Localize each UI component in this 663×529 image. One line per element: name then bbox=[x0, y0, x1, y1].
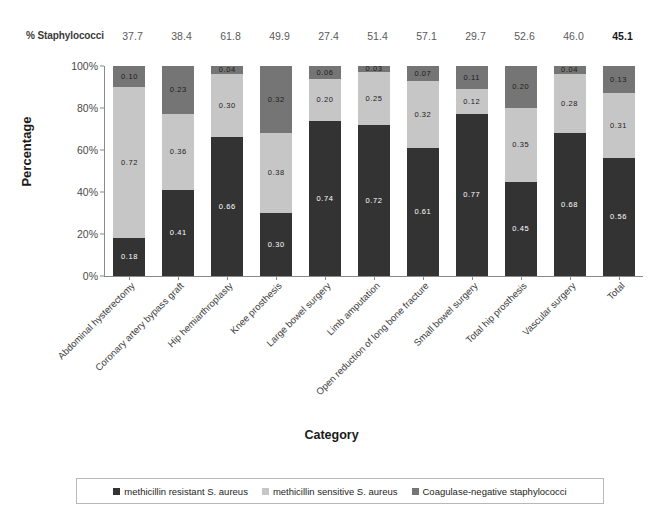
stacked-bar[interactable]: 0.130.310.56 bbox=[603, 66, 635, 276]
bar-slot[interactable]: 0.040.280.68 bbox=[545, 66, 594, 276]
bar-segment[interactable]: 0.20 bbox=[505, 66, 537, 108]
category-label-slot: Hip hemiarthroplasty bbox=[203, 278, 252, 398]
y-axis-tick-label: 0% bbox=[83, 270, 98, 282]
bar-segment[interactable]: 0.61 bbox=[407, 148, 439, 276]
stacked-bar[interactable]: 0.320.380.30 bbox=[260, 66, 292, 276]
staphylococci-value: 45.1 bbox=[598, 30, 647, 42]
legend-label: methicillin sensitive S. aureus bbox=[273, 486, 398, 497]
bar-segment[interactable]: 0.06 bbox=[309, 66, 341, 79]
bar-segment[interactable]: 0.38 bbox=[260, 133, 292, 213]
legend-item[interactable]: methicillin sensitive S. aureus bbox=[262, 486, 398, 497]
bar-segment[interactable]: 0.04 bbox=[554, 66, 586, 74]
category-label-slot: Total hip prosthesis bbox=[496, 278, 545, 398]
y-axis-tick-label: 80% bbox=[77, 102, 98, 114]
staphylococci-value: 29.7 bbox=[451, 30, 500, 42]
bar-segment-value: 0.18 bbox=[121, 253, 138, 261]
stacked-bar[interactable]: 0.040.300.66 bbox=[211, 66, 243, 276]
stacked-bar[interactable]: 0.100.720.18 bbox=[113, 66, 145, 276]
bar-segment-value: 0.07 bbox=[414, 70, 431, 78]
stacked-bar[interactable]: 0.040.280.68 bbox=[554, 66, 586, 276]
bar-segment-value: 0.35 bbox=[512, 141, 529, 149]
bar-segment-value: 0.68 bbox=[561, 201, 578, 209]
bar-segment[interactable]: 0.10 bbox=[113, 66, 145, 87]
bar-segment[interactable]: 0.04 bbox=[211, 66, 243, 74]
stacked-bar[interactable]: 0.030.250.72 bbox=[358, 66, 390, 276]
bar-segment[interactable]: 0.07 bbox=[407, 66, 439, 81]
bar-segment[interactable]: 0.25 bbox=[358, 72, 390, 125]
category-label: Total bbox=[604, 280, 626, 302]
category-label: Abdominal hysterectomy bbox=[56, 280, 137, 361]
bar-segment-value: 0.72 bbox=[365, 197, 382, 205]
bar-segment-value: 0.61 bbox=[414, 208, 431, 216]
stacked-bar[interactable]: 0.200.350.45 bbox=[505, 66, 537, 276]
bar-segment[interactable]: 0.12 bbox=[456, 89, 488, 114]
bar-segment[interactable]: 0.28 bbox=[554, 74, 586, 133]
bar-segment-value: 0.28 bbox=[561, 100, 578, 108]
bar-segment[interactable]: 0.32 bbox=[260, 66, 292, 133]
bar-segment[interactable]: 0.30 bbox=[211, 74, 243, 137]
bar-segment[interactable]: 0.56 bbox=[603, 158, 635, 276]
bar-segment-value: 0.74 bbox=[317, 195, 334, 203]
legend-item[interactable]: Coagulase-negative staphylococci bbox=[412, 486, 567, 497]
bar-segment-value: 0.10 bbox=[121, 73, 138, 81]
bar-slot[interactable]: 0.100.720.18 bbox=[105, 66, 154, 276]
y-axis-tick-label: 20% bbox=[77, 228, 98, 240]
bar-segment[interactable]: 0.77 bbox=[456, 114, 488, 276]
bar-slot[interactable]: 0.040.300.66 bbox=[203, 66, 252, 276]
bar-segment[interactable]: 0.41 bbox=[162, 190, 194, 276]
staphylococci-annotation-row: % Staphylococci 37.738.461.849.927.451.4… bbox=[0, 30, 663, 50]
bar-slot[interactable]: 0.070.320.61 bbox=[398, 66, 447, 276]
legend-item[interactable]: methicillin resistant S. aureus bbox=[113, 486, 248, 497]
bar-segment-value: 0.20 bbox=[317, 96, 334, 104]
stacked-bar[interactable]: 0.110.120.77 bbox=[456, 66, 488, 276]
staphylococci-row-label: % Staphylococci bbox=[26, 30, 114, 41]
bar-segment-value: 0.11 bbox=[464, 74, 480, 82]
bar-segment[interactable]: 0.36 bbox=[162, 114, 194, 190]
bar-segment[interactable]: 0.20 bbox=[309, 79, 341, 121]
bar-segment[interactable]: 0.45 bbox=[505, 182, 537, 277]
legend-label: Coagulase-negative staphylococci bbox=[423, 486, 567, 497]
y-axis-ticks: 0%20%40%60%80%100% bbox=[58, 66, 104, 276]
bar-slot[interactable]: 0.060.200.74 bbox=[301, 66, 350, 276]
y-axis-tick-label: 60% bbox=[77, 144, 98, 156]
bar-segment[interactable]: 0.11 bbox=[456, 66, 488, 89]
bar-segment[interactable]: 0.13 bbox=[603, 66, 635, 93]
bar-segment-value: 0.31 bbox=[610, 122, 627, 130]
bar-segment[interactable]: 0.31 bbox=[603, 93, 635, 158]
bar-segment-value: 0.20 bbox=[512, 83, 529, 91]
bar-slot[interactable]: 0.200.350.45 bbox=[496, 66, 545, 276]
legend-swatch-icon bbox=[113, 488, 120, 495]
bar-segment[interactable]: 0.72 bbox=[113, 87, 145, 238]
legend-swatch-icon bbox=[412, 488, 419, 495]
x-axis-category-labels: Abdominal hysterectomyCoronary artery by… bbox=[105, 278, 643, 398]
bar-segment[interactable]: 0.35 bbox=[505, 108, 537, 182]
stacked-bar[interactable]: 0.070.320.61 bbox=[407, 66, 439, 276]
bar-slot[interactable]: 0.230.360.41 bbox=[154, 66, 203, 276]
chart-legend: methicillin resistant S. aureusmethicill… bbox=[76, 478, 604, 504]
bar-segment[interactable]: 0.18 bbox=[113, 238, 145, 276]
bar-segment-value: 0.04 bbox=[219, 66, 236, 74]
bar-segment-value: 0.32 bbox=[414, 111, 431, 119]
bar-segment-value: 0.30 bbox=[219, 102, 236, 110]
bar-slot[interactable]: 0.320.380.30 bbox=[252, 66, 301, 276]
bar-segment[interactable]: 0.72 bbox=[358, 125, 390, 276]
x-axis-title: Category bbox=[0, 428, 663, 442]
bar-segment[interactable]: 0.66 bbox=[211, 137, 243, 276]
bar-segment[interactable]: 0.68 bbox=[554, 133, 586, 276]
bar-segment[interactable]: 0.74 bbox=[309, 121, 341, 276]
bar-segment-value: 0.12 bbox=[463, 98, 480, 106]
staphylococci-value: 38.4 bbox=[157, 30, 206, 42]
bar-slot[interactable]: 0.030.250.72 bbox=[350, 66, 399, 276]
bar-segment[interactable]: 0.32 bbox=[407, 81, 439, 148]
bar-slot[interactable]: 0.110.120.77 bbox=[447, 66, 496, 276]
bar-segment[interactable]: 0.23 bbox=[162, 66, 194, 114]
bar-segment[interactable]: 0.30 bbox=[260, 213, 292, 276]
legend-swatch-icon bbox=[262, 488, 269, 495]
bar-segment-value: 0.23 bbox=[170, 86, 187, 94]
bar-slot[interactable]: 0.130.310.56 bbox=[594, 66, 643, 276]
bar-series-container: 0.100.720.180.230.360.410.040.300.660.32… bbox=[105, 66, 643, 276]
stacked-bar[interactable]: 0.060.200.74 bbox=[309, 66, 341, 276]
stacked-bar[interactable]: 0.230.360.41 bbox=[162, 66, 194, 276]
bar-segment-value: 0.41 bbox=[170, 229, 187, 237]
bar-segment-value: 0.45 bbox=[512, 225, 529, 233]
